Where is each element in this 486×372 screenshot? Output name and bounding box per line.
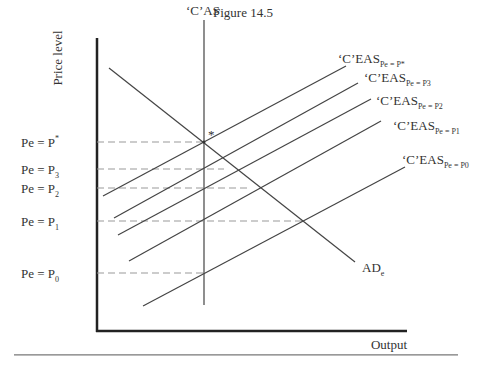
price-label-p0: Pe = P0 — [21, 266, 59, 284]
eas-curve-p3 — [114, 83, 358, 218]
eas-curve-p0 — [143, 167, 405, 306]
price-label-p1: Pe = P1 — [21, 214, 59, 232]
price-label-p2: Pe = P2 — [21, 181, 59, 199]
eas-labels: ‘C’EASPe = P* ‘C’EASPe = P3 ‘C’EASPe = P… — [338, 51, 469, 170]
price-level-labels: Pe = P* Pe = P3 Pe = P2 Pe = P1 Pe = P0 — [21, 134, 59, 284]
eas-label-p2: ‘C’EASPe = P2 — [376, 93, 443, 111]
ad-curve — [109, 68, 355, 262]
eas-label-p1: ‘C’EASPe = P1 — [393, 118, 460, 136]
ad-label: ADe — [362, 260, 385, 278]
eas-curves — [103, 66, 405, 306]
las-label: ‘C’AS — [186, 3, 220, 18]
figure-canvas: Figure 14.5 Price level Output Pe = P* P… — [0, 0, 486, 372]
eas-label-pstar: ‘C’EASPe = P* — [338, 51, 405, 69]
eas-curve-pstar — [103, 66, 346, 196]
bottom-divider — [14, 354, 458, 356]
x-axis-label: Output — [371, 337, 408, 352]
y-axis-label: Price level — [50, 30, 65, 86]
price-label-p3: Pe = P3 — [21, 162, 59, 180]
price-label-pstar: Pe = P* — [21, 134, 59, 150]
eas-label-p3: ‘C’EASPe = P3 — [364, 70, 431, 88]
reference-lines — [97, 142, 305, 273]
eas-label-p0: ‘C’EASPe = P0 — [402, 152, 469, 170]
figure-title: Figure 14.5 — [213, 5, 273, 20]
equilibrium-point — [203, 141, 206, 144]
equilibrium-marker: * — [208, 127, 215, 142]
